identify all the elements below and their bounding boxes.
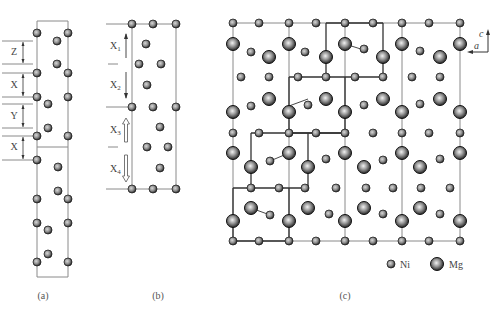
ni-atom-icon (156, 123, 164, 131)
ni-atom-icon (285, 237, 293, 245)
ni-atom-icon (416, 47, 424, 55)
dimension-y: Y (2, 104, 33, 128)
ni-atom-icon (135, 60, 143, 68)
ni-atom-icon (425, 237, 433, 245)
ni-atom-icon (285, 19, 293, 27)
ni-atom-icon (54, 163, 62, 171)
mg-atom-icon (377, 93, 390, 106)
legend-ni-label: Ni (400, 259, 410, 270)
ni-atom-icon (255, 129, 263, 137)
mg-atom-icon (396, 147, 409, 160)
mg-atom-icon (414, 161, 427, 174)
cell-box (37, 21, 68, 277)
arrow-x3: X3 (110, 118, 130, 142)
ni-atom-icon (142, 40, 150, 48)
ni-atom-icon (247, 48, 255, 56)
ni-atom-icon (164, 143, 172, 151)
ni-atom-icon (360, 101, 368, 109)
c-axis-arrow-icon (486, 29, 490, 35)
ni-atom-icon (332, 184, 340, 192)
ni-atom-icon (229, 237, 237, 245)
legend-mg-label: Mg (449, 259, 463, 270)
atoms (227, 19, 467, 245)
ni-atom-icon (446, 184, 454, 192)
ni-atom-icon (425, 19, 433, 27)
panel-b: X1X2X3X4 (b) (106, 20, 180, 302)
ni-atom-icon (53, 60, 61, 68)
ni-atom-icon (54, 187, 62, 195)
ni-atom-icon (341, 19, 349, 27)
ni-atom-icon (143, 143, 151, 151)
mg-atom-icon (339, 106, 352, 119)
mg-atom-icon (320, 93, 333, 106)
mg-atom-icon (227, 215, 240, 228)
ni-atom-icon (64, 195, 72, 203)
ni-atom-icon (143, 81, 151, 89)
ni-atom-icon (425, 129, 433, 137)
mg-atom-icon (396, 215, 409, 228)
panel-a: ZXYX (a) (2, 21, 72, 302)
mg-atom-icon (320, 51, 333, 64)
mg-atom-icon (454, 106, 467, 119)
mg-atom-icon (454, 38, 467, 51)
ni-atom-icon (33, 29, 41, 37)
arrow-x1: X1 (110, 33, 128, 58)
mg-atom-icon (283, 215, 296, 228)
dimension-label: X (10, 141, 18, 152)
ni-atom-icon (64, 29, 72, 37)
legend: Ni Mg (387, 258, 463, 271)
ni-atom-icon (436, 73, 444, 81)
ni-atoms (128, 20, 180, 193)
legend-mg-icon (431, 258, 444, 271)
ni-atom-icon (172, 185, 180, 193)
mg-atom-icon (454, 147, 467, 160)
arrow-label: X1 (110, 40, 121, 53)
ni-atom-icon (229, 19, 237, 27)
ni-atom-icon (301, 184, 309, 192)
ni-atom-icon (398, 129, 406, 137)
ni-atom-icon (416, 100, 424, 108)
arrow-label: X3 (110, 124, 121, 137)
ni-atom-icon (247, 102, 255, 110)
ni-atom-icon (255, 19, 263, 27)
mg-atom-icon (283, 106, 296, 119)
ni-atom-icon (33, 195, 41, 203)
ni-atom-icon (255, 237, 263, 245)
highlighted-cell-path (289, 23, 383, 133)
ni-atom-icon (322, 73, 330, 81)
mg-atom-icon (414, 202, 427, 215)
ni-atom-icon (172, 20, 180, 28)
ni-atom-icon (149, 20, 157, 28)
arrow-x2: X2 (110, 72, 128, 99)
panel-a-caption: (a) (37, 290, 48, 302)
mg-atom-icon (227, 106, 240, 119)
ni-atom-icon (304, 101, 312, 109)
mg-atom-icon (227, 38, 240, 51)
ni-atom-icon (312, 237, 320, 245)
ni-atom-icon (369, 129, 377, 137)
dimension-x: X (2, 136, 33, 160)
mg-atom-icon (434, 51, 447, 64)
ni-atom-icon (360, 45, 368, 53)
ni-atom-icon (341, 129, 349, 137)
a-axis-label: a (474, 40, 479, 51)
ni-atom-icon (128, 185, 136, 193)
ni-atom-icon (237, 73, 245, 81)
mg-atom-icon (339, 38, 352, 51)
mg-atom-icon (396, 106, 409, 119)
ni-atom-icon (33, 93, 41, 101)
ni-atom-icon (456, 237, 464, 245)
mg-atom-icon (283, 147, 296, 160)
mg-atom-icon (283, 38, 296, 51)
ni-atom-icon (149, 185, 157, 193)
mg-atom-icon (263, 51, 276, 64)
ni-atom-icon (53, 37, 61, 45)
legend-ni-icon (387, 260, 395, 268)
ni-atom-icon (64, 219, 72, 227)
dimension-label: Y (10, 110, 17, 121)
ni-atom-icon (456, 19, 464, 27)
mg-atom-icon (339, 215, 352, 228)
mg-atom-icon (245, 161, 258, 174)
ni-atom-icon (64, 93, 72, 101)
ni-atom-icon (369, 237, 377, 245)
